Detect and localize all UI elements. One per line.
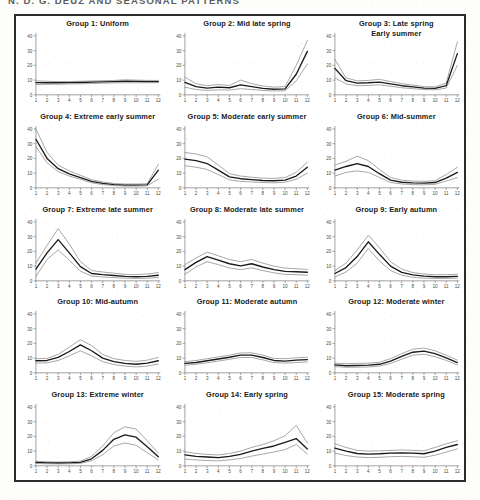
x-tick-label: 8 xyxy=(113,191,116,196)
x-tick-label: 10 xyxy=(432,191,438,196)
x-tick-label: 2 xyxy=(344,191,347,196)
x-tick-label: 1 xyxy=(184,191,187,196)
y-tick-label: 20 xyxy=(27,434,33,439)
x-tick-label: 4 xyxy=(217,284,220,289)
y-tick-label: 10 xyxy=(27,264,33,269)
chart-svg: 010203040123456789101112 xyxy=(165,294,314,387)
x-tick-label: 5 xyxy=(228,377,231,382)
x-tick-label: 7 xyxy=(251,284,254,289)
x-tick-label: 1 xyxy=(333,98,336,103)
chart-svg: 010203040123456789101112 xyxy=(16,109,165,202)
y-tick-label: 40 xyxy=(27,34,33,39)
x-tick-label: 2 xyxy=(195,98,198,103)
x-tick-label: 5 xyxy=(228,470,231,475)
y-tick-label: 40 xyxy=(27,219,33,224)
x-tick-label: 6 xyxy=(240,191,243,196)
x-tick-label: 12 xyxy=(305,98,311,103)
x-tick-label: 4 xyxy=(367,284,370,289)
x-tick-label: 7 xyxy=(251,191,254,196)
y-tick-label: 10 xyxy=(177,78,183,83)
x-tick-label: 5 xyxy=(79,470,82,475)
y-tick-label: 20 xyxy=(177,342,183,347)
y-tick-label: 0 xyxy=(179,371,182,376)
x-tick-label: 4 xyxy=(367,98,370,103)
x-tick-label: 9 xyxy=(422,470,425,475)
x-tick-label: 5 xyxy=(378,98,381,103)
y-tick-label: 40 xyxy=(177,312,183,317)
y-tick-label: 20 xyxy=(27,342,33,347)
x-tick-label: 10 xyxy=(134,470,140,475)
y-tick-label: 10 xyxy=(326,78,332,83)
x-tick-label: 12 xyxy=(156,98,162,103)
confidence-band-line xyxy=(36,129,158,184)
x-tick-label: 11 xyxy=(145,470,150,475)
confidence-band-line xyxy=(185,152,307,178)
x-tick-label: 8 xyxy=(411,284,414,289)
confidence-band-line xyxy=(185,40,307,87)
x-tick-label: 4 xyxy=(217,377,220,382)
y-tick-label: 30 xyxy=(326,327,332,332)
y-tick-label: 30 xyxy=(326,141,332,146)
x-tick-label: 4 xyxy=(217,470,220,475)
x-tick-label: 3 xyxy=(57,470,60,475)
x-tick-label: 8 xyxy=(262,98,265,103)
x-tick-label: 5 xyxy=(378,470,381,475)
x-tick-label: 12 xyxy=(454,284,460,289)
x-tick-label: 12 xyxy=(454,377,460,382)
x-tick-label: 7 xyxy=(400,377,403,382)
chart-panel: 010203040123456789101112Group 5: Moderat… xyxy=(165,109,314,202)
x-tick-label: 3 xyxy=(356,98,359,103)
y-tick-label: 30 xyxy=(177,327,183,332)
chart-svg: 010203040123456789101112 xyxy=(165,202,314,295)
x-tick-label: 1 xyxy=(184,377,187,382)
x-tick-label: 7 xyxy=(400,284,403,289)
x-tick-label: 11 xyxy=(444,98,449,103)
x-tick-label: 7 xyxy=(251,98,254,103)
y-tick-label: 20 xyxy=(177,434,183,439)
x-tick-label: 10 xyxy=(134,98,140,103)
x-tick-label: 6 xyxy=(240,377,243,382)
x-tick-label: 5 xyxy=(378,377,381,382)
x-tick-label: 2 xyxy=(195,284,198,289)
confidence-band-line xyxy=(335,65,457,89)
y-tick-label: 0 xyxy=(30,371,33,376)
x-tick-label: 12 xyxy=(156,191,162,196)
y-tick-label: 0 xyxy=(328,278,331,283)
x-tick-label: 6 xyxy=(389,284,392,289)
y-tick-label: 0 xyxy=(30,186,33,191)
y-tick-label: 10 xyxy=(326,171,332,176)
y-tick-label: 30 xyxy=(27,141,33,146)
y-tick-label: 0 xyxy=(179,186,182,191)
x-tick-label: 6 xyxy=(90,98,93,103)
x-tick-label: 2 xyxy=(195,470,198,475)
x-tick-label: 9 xyxy=(273,470,276,475)
confidence-band-line xyxy=(335,156,457,181)
confidence-band-line xyxy=(185,426,307,456)
x-tick-label: 6 xyxy=(240,98,243,103)
y-tick-label: 40 xyxy=(27,312,33,317)
x-tick-label: 4 xyxy=(367,377,370,382)
x-tick-label: 1 xyxy=(35,470,38,475)
figure-page: N. D. G. DEUZ AND SEASONAL PATTERNS 0102… xyxy=(0,0,480,500)
x-tick-label: 7 xyxy=(101,284,104,289)
y-tick-label: 20 xyxy=(326,434,332,439)
y-tick-label: 0 xyxy=(30,464,33,469)
x-tick-label: 8 xyxy=(411,377,414,382)
chart-panel: 010203040123456789101112Group 3: Late sp… xyxy=(315,16,464,109)
x-tick-label: 4 xyxy=(68,284,71,289)
x-tick-label: 11 xyxy=(145,191,150,196)
chart-panel: 010203040123456789101112Group 4: Extreme… xyxy=(16,109,165,202)
x-tick-label: 9 xyxy=(273,377,276,382)
chart-svg: 010203040123456789101112 xyxy=(315,16,464,109)
x-tick-label: 12 xyxy=(305,284,311,289)
x-tick-label: 10 xyxy=(283,377,289,382)
chart-panel: 010203040123456789101112Group 2: Mid lat… xyxy=(165,16,314,109)
x-tick-label: 2 xyxy=(195,377,198,382)
x-tick-label: 1 xyxy=(333,470,336,475)
x-tick-label: 1 xyxy=(333,191,336,196)
y-tick-label: 10 xyxy=(326,449,332,454)
x-tick-label: 3 xyxy=(356,470,359,475)
y-tick-label: 10 xyxy=(27,449,33,454)
y-tick-label: 20 xyxy=(27,156,33,161)
x-tick-label: 7 xyxy=(101,470,104,475)
